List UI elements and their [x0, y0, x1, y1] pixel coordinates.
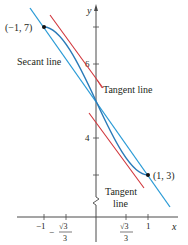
point-label-1-3: (1, 3) [153, 170, 175, 182]
x-tick-labels: −1 − √3 3 √3 3 1 [36, 221, 151, 243]
tangent-upper-leader [97, 80, 102, 88]
point-1-3 [146, 173, 150, 177]
tangent-line-lower [89, 113, 144, 188]
secant-line [30, 8, 170, 207]
x-label-1: 1 [146, 221, 151, 231]
point-label-neg1-7: (−1, 7) [5, 22, 32, 34]
x-label-neg-sqrt3-sign: − [49, 227, 54, 237]
tangent-line-upper [50, 15, 103, 88]
y-label-4: 4 [85, 133, 90, 143]
x-label-neg-sqrt3-num: √3 [59, 222, 67, 231]
x-label-sqrt3-num: √3 [120, 222, 128, 231]
secant-tangent-diagram: x −1 − √3 3 √3 3 1 y 6 4 (−1, 7) (1, 3) [0, 0, 188, 245]
tangent-line-lower-label-1: Tangent [105, 186, 137, 197]
y-axis-label: y [86, 5, 92, 16]
x-label-sqrt3-den: 3 [124, 234, 128, 243]
tangent-line-upper-label: Tangent line [103, 84, 153, 95]
x-label-neg-sqrt3-den: 3 [63, 234, 67, 243]
axis-break-icon [93, 197, 99, 205]
x-label-neg1: −1 [36, 221, 46, 231]
point-neg1-7 [42, 25, 46, 29]
secant-line-label: Secant line [17, 56, 62, 67]
y-axis-arrow-icon [94, 4, 98, 11]
x-axis-label: x [171, 221, 177, 232]
tangent-line-lower-label-2: line [113, 198, 129, 209]
